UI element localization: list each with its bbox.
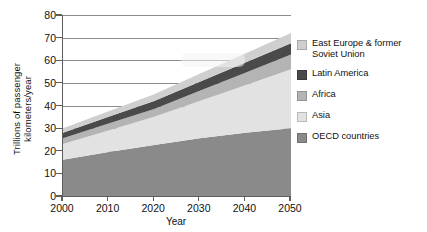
x-tick-2020: [153, 196, 154, 201]
y-tick-label-wrap-80: 80: [0, 10, 56, 20]
y-tick-label-60: 60: [4, 55, 56, 65]
legend-swatch-icon-0: [297, 40, 307, 50]
legend-item-2[interactable]: Africa: [297, 89, 425, 101]
y-tick-label-70: 70: [4, 33, 56, 43]
y-tick-label-0: 0: [4, 191, 56, 201]
y-tick-label-wrap-60: 60: [0, 55, 56, 65]
legend-swatch-icon-4: [297, 133, 307, 143]
chart-legend: East Europe & former Soviet UnionLatin A…: [297, 38, 425, 152]
x-tick-label-2040: 2040: [224, 202, 264, 214]
y-tick-label-wrap-30: 30: [0, 123, 56, 133]
chart-container: Trillions of passenger kilometers/year 0…: [0, 0, 427, 232]
legend-swatch-icon-1: [297, 70, 307, 80]
x-tick-label-2010: 2010: [88, 202, 128, 214]
legend-item-3[interactable]: Asia: [297, 110, 425, 122]
legend-label-3: Asia: [312, 110, 330, 121]
y-tick-label-wrap-40: 40: [0, 101, 56, 111]
x-tick-label-2030: 2030: [179, 202, 219, 214]
legend-label-0: East Europe & former Soviet Union: [312, 38, 401, 59]
x-tick-label-2020: 2020: [133, 202, 173, 214]
x-tick-2030: [198, 196, 199, 201]
y-tick-label-80: 80: [4, 10, 56, 20]
y-tick-label-wrap-70: 70: [0, 33, 56, 43]
x-tick-2050: [289, 196, 290, 201]
x-tick-label-2050: 2050: [270, 202, 310, 214]
legend-label-4: OECD countries: [312, 131, 379, 142]
y-tick-label-wrap-0: 0: [0, 191, 56, 201]
legend-item-1[interactable]: Latin America: [297, 68, 425, 80]
legend-label-1: Latin America: [312, 68, 368, 79]
plot-area: [62, 15, 291, 197]
x-tick-2010: [107, 196, 108, 201]
stacked-area-series: [63, 15, 291, 196]
y-tick-label-10: 10: [4, 168, 56, 178]
y-tick-label-wrap-10: 10: [0, 168, 56, 178]
y-tick-label-40: 40: [4, 101, 56, 111]
x-tick-2000: [61, 196, 62, 201]
y-tick-label-wrap-50: 50: [0, 78, 56, 88]
legend-label-2: Africa: [312, 89, 336, 100]
x-tick-2040: [244, 196, 245, 201]
scan-watermark: [181, 53, 245, 67]
x-axis-title: Year: [62, 216, 290, 227]
legend-item-4[interactable]: OECD countries: [297, 131, 425, 143]
x-tick-label-2000: 2000: [42, 202, 82, 214]
y-tick-label-50: 50: [4, 78, 56, 88]
legend-swatch-icon-3: [297, 112, 307, 122]
legend-item-0[interactable]: East Europe & former Soviet Union: [297, 38, 425, 59]
legend-swatch-icon-2: [297, 91, 307, 101]
y-tick-label-wrap-20: 20: [0, 146, 56, 156]
y-tick-label-20: 20: [4, 146, 56, 156]
y-tick-label-30: 30: [4, 123, 56, 133]
